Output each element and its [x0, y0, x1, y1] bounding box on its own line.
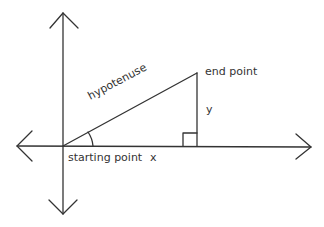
hypotenuse-line: [63, 73, 197, 146]
y-label: y: [206, 104, 213, 115]
x-label: x: [150, 152, 157, 163]
diagram-canvas: [0, 0, 324, 227]
end-point-label: end point: [205, 66, 257, 77]
right-angle-marker: [183, 133, 197, 146]
starting-point-label: starting point: [68, 152, 142, 163]
horizontal-axis: [17, 146, 311, 147]
up-arrow-icon: [50, 13, 78, 28]
angle-arc: [88, 132, 93, 146]
